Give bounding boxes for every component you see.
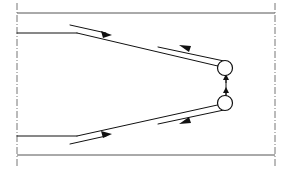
- lower-pulley-icon[interactable]: [218, 96, 233, 111]
- lower-return-segment: [158, 110, 224, 124]
- top-return-arrow-icon: [179, 45, 191, 52]
- centerline-group: [17, 3, 275, 168]
- top-inlet-arrow-line: [70, 25, 106, 33]
- diagram-canvas: Symmetric V-path routing diagram with tw…: [0, 0, 288, 171]
- technical-diagram: Symmetric V-path routing diagram with tw…: [0, 0, 288, 171]
- upper-pulley-icon[interactable]: [218, 61, 233, 76]
- flow-arrow-group: [70, 25, 191, 144]
- lower-limb-group: [77, 104, 224, 136]
- bottom-inlet-arrow-line: [70, 136, 106, 144]
- pulley-group: [218, 61, 233, 111]
- upper-limb-group: [77, 33, 224, 67]
- lower-outbound-segment: [77, 104, 222, 136]
- frame-group: [17, 13, 275, 155]
- upper-outbound-segment: [77, 33, 222, 67]
- top-inlet-arrow-icon: [101, 31, 112, 38]
- connector-down-arrow-icon: [223, 87, 229, 93]
- guide-line-group: [17, 33, 77, 136]
